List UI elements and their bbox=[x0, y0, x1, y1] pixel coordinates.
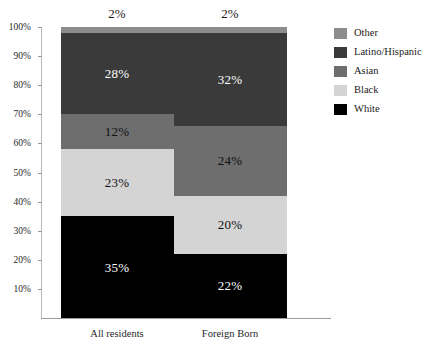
y-tick-mark bbox=[38, 289, 42, 290]
bar-segment[interactable]: 22% bbox=[174, 254, 287, 318]
bar-segment[interactable]: 23% bbox=[61, 149, 174, 216]
legend: OtherLatino/HispanicAsianBlackWhite bbox=[334, 24, 442, 119]
legend-swatch-icon bbox=[334, 47, 347, 58]
legend-swatch-icon bbox=[334, 66, 347, 77]
legend-item[interactable]: Black bbox=[334, 81, 442, 99]
y-tick-mark bbox=[38, 114, 42, 115]
y-tick-label: 20% bbox=[14, 255, 31, 265]
y-tick-mark bbox=[38, 173, 42, 174]
y-tick-label: 30% bbox=[14, 226, 31, 236]
legend-swatch-icon bbox=[334, 85, 347, 96]
bar-segment-label: 32% bbox=[218, 73, 242, 86]
legend-label: White bbox=[354, 103, 380, 115]
bar-segment-label: 22% bbox=[218, 279, 242, 292]
plot-area: 2%28%12%23%35%2%32%24%20%22% bbox=[42, 27, 331, 318]
legend-item[interactable]: Asian bbox=[334, 62, 442, 80]
x-category-label: Foreign Born bbox=[160, 328, 300, 340]
y-tick-mark bbox=[38, 85, 42, 86]
y-tick-mark bbox=[38, 143, 42, 144]
y-tick-mark bbox=[38, 260, 42, 261]
y-tick-label: 10% bbox=[14, 284, 31, 294]
y-tick-mark bbox=[38, 27, 42, 28]
y-tick-label: 100% bbox=[9, 22, 31, 32]
stacked-bar-chart: 100%90%80%70%60%50%40%30%20%10% 2%28%12%… bbox=[0, 0, 443, 355]
y-tick-mark bbox=[38, 231, 42, 232]
bar-segment[interactable]: 32% bbox=[174, 33, 287, 126]
y-tick-label: 50% bbox=[14, 168, 31, 178]
bar-segment[interactable]: 12% bbox=[61, 114, 174, 149]
bar-segment-label: 20% bbox=[218, 218, 242, 231]
y-tick-mark bbox=[38, 202, 42, 203]
bar-segment-label: 24% bbox=[218, 154, 242, 167]
legend-label: Latino/Hispanic bbox=[354, 46, 422, 58]
y-tick-mark bbox=[38, 56, 42, 57]
bar-segment-label-outside: 2% bbox=[61, 7, 174, 21]
y-axis: 100%90%80%70%60%50%40%30%20%10% bbox=[0, 0, 38, 355]
y-tick-label: 80% bbox=[14, 80, 31, 90]
bar-segment-label: 35% bbox=[105, 261, 129, 274]
bar-segment[interactable]: 28% bbox=[61, 33, 174, 114]
legend-label: Black bbox=[354, 84, 379, 96]
y-tick-label: 70% bbox=[14, 109, 31, 119]
bar-segment[interactable]: 20% bbox=[174, 196, 287, 254]
legend-swatch-icon bbox=[334, 104, 347, 115]
bar-segment-label-outside: 2% bbox=[174, 7, 287, 21]
legend-label: Other bbox=[354, 27, 378, 39]
bar-stack: 2%28%12%23%35% bbox=[61, 27, 174, 318]
legend-swatch-icon bbox=[334, 28, 347, 39]
bar-segment-label: 12% bbox=[105, 125, 129, 138]
legend-item[interactable]: Latino/Hispanic bbox=[334, 43, 442, 61]
bar-stack: 2%32%24%20%22% bbox=[174, 27, 287, 318]
bar-segment[interactable]: 35% bbox=[61, 216, 174, 318]
y-tick-label: 90% bbox=[14, 51, 31, 61]
y-tick-label: 60% bbox=[14, 138, 31, 148]
x-axis-line bbox=[41, 318, 331, 319]
legend-item[interactable]: White bbox=[334, 100, 442, 118]
bar-segment-label: 23% bbox=[105, 176, 129, 189]
bar-group[interactable]: 2%32%24%20%22% bbox=[174, 27, 287, 318]
legend-item[interactable]: Other bbox=[334, 24, 442, 42]
bar-segment[interactable]: 24% bbox=[174, 126, 287, 196]
bar-segment-label: 28% bbox=[105, 67, 129, 80]
y-tick-label: 40% bbox=[14, 197, 31, 207]
bar-group[interactable]: 2%28%12%23%35% bbox=[61, 27, 174, 318]
legend-label: Asian bbox=[354, 65, 379, 77]
